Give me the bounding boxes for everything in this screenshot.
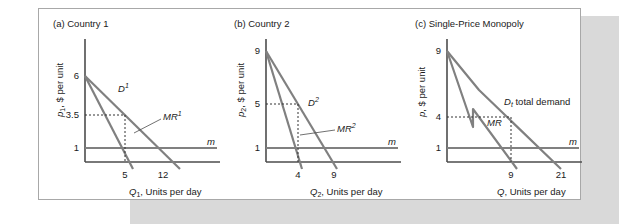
- panel-a-plot: p1, $ per unit 6 3.5 1 5: [39, 9, 220, 201]
- panel-b-mr-leader-line: [300, 130, 335, 135]
- panel-c-mr-curve: [447, 51, 517, 169]
- panel-b-y-tick-9: 9: [255, 45, 260, 56]
- panel-c-mr-label: MR: [487, 117, 502, 128]
- panel-c-y-tick-9: 9: [436, 45, 441, 56]
- panel-c-total-demand-label: Dt total demand: [504, 96, 570, 108]
- panel-b-y-axis-rest: , $ per unit: [235, 63, 246, 108]
- panel-a-y-axis-rest: , $ per unit: [54, 63, 65, 108]
- panel-c-y-axis-title: p, $ per unit: [416, 66, 427, 118]
- panel-c-y-tick-4: 4: [436, 111, 441, 122]
- panel-a-x-tick-12: 12: [158, 169, 169, 180]
- panel-c-marginal-cost-label: m: [569, 136, 577, 147]
- panel-b-x-tick-4: 4: [295, 169, 300, 180]
- panel-b-y-axis-title: p2, $ per unit: [235, 63, 247, 118]
- panel-a-mr-leader-line: [134, 119, 161, 133]
- panel-a-marginal-cost-label: m: [207, 136, 215, 147]
- panel-c-x-tick-9: 9: [508, 169, 513, 180]
- panel-b-y-tick-5: 5: [255, 98, 260, 109]
- panel-a-demand-curve: [85, 76, 180, 169]
- panel-b-demand-curve: [266, 51, 337, 169]
- panel-single-price-monopoly: (c) Single-Price Monopoly p, $ per unit …: [401, 9, 582, 201]
- panel-b-demand-label: D2: [308, 96, 319, 108]
- panel-a-y-tick-3point5: 3.5: [66, 109, 79, 120]
- panel-a-x-axis-title: Q1, Units per day: [129, 186, 202, 198]
- panel-b-mr-curve: [266, 51, 302, 169]
- figure-root: (a) Country 1 p1, $ per unit: [0, 0, 619, 224]
- panel-a-y-axis-title: p1, $ per unit: [54, 63, 66, 118]
- panel-b-mr-label: MR2: [337, 122, 356, 134]
- panel-b-x-axis-title: Q2, Units per day: [310, 186, 383, 198]
- panel-country-2: (b) Country 2 p2, $ per unit 9 5 1 4: [220, 9, 401, 201]
- panel-a-mr-curve: [85, 76, 133, 169]
- panel-c-x-tick-21: 21: [556, 169, 567, 180]
- panel-c-y-axis-rest: , $ per unit: [416, 66, 427, 111]
- panel-c-y-tick-1: 1: [436, 142, 441, 153]
- panel-a-y-tick-6: 6: [74, 70, 79, 81]
- panel-country-1: (a) Country 1 p1, $ per unit: [39, 9, 220, 201]
- figure-card: (a) Country 1 p1, $ per unit: [38, 8, 581, 200]
- panel-b-plot: p2, $ per unit 9 5 1 4 9 D2 MR2: [220, 9, 401, 201]
- panel-c-plot: p, $ per unit 9 4 1 9 21 Dt total demand: [401, 9, 582, 201]
- panel-b-x-tick-9: 9: [331, 169, 336, 180]
- panel-a-demand-label: D1: [118, 82, 129, 94]
- panel-a-x-tick-5: 5: [122, 169, 127, 180]
- panel-a-mr-label: MR1: [163, 110, 182, 122]
- panel-b-y-tick-1: 1: [255, 142, 260, 153]
- panel-a-y-tick-1: 1: [74, 142, 79, 153]
- panel-b-marginal-cost-label: m: [388, 136, 396, 147]
- panel-c-x-axis-title: Q, Units per day: [497, 186, 566, 197]
